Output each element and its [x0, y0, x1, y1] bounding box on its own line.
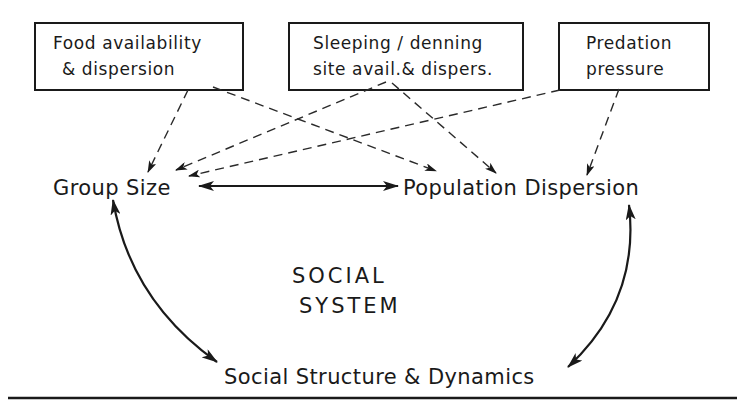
factor-predation-line1: Predation	[586, 33, 672, 53]
edge-predation-to-group-size	[189, 90, 560, 176]
factor-box-sleeping: Sleeping / denning site avail.& dispers.	[289, 23, 523, 90]
edge-predation-to-population-dispersion	[587, 89, 619, 175]
factor-box-food: Food availability & dispersion	[35, 23, 243, 90]
factor-box-predation: Predation pressure	[559, 23, 709, 90]
factor-sleeping-line1: Sleeping / denning	[313, 33, 483, 53]
edge-population-dispersion-social-structure	[568, 205, 630, 367]
edge-sleeping-to-population-dispersion	[392, 83, 496, 173]
node-group-size: Group Size	[53, 176, 171, 200]
edge-food-to-group-size	[148, 90, 188, 172]
edge-food-to-population-dispersion	[213, 87, 436, 171]
edge-sleeping-to-group-size	[176, 82, 386, 170]
factor-food-line1: Food availability	[53, 33, 202, 53]
node-social-structure: Social Structure & Dynamics	[224, 365, 535, 389]
center-label-line1: SOCIAL	[292, 264, 387, 288]
edge-group-size-social-structure	[113, 200, 217, 362]
center-label-line2: SYSTEM	[299, 294, 401, 318]
node-population-dispersion: Population Dispersion	[403, 176, 639, 200]
factor-sleeping-line2: site avail.& dispers.	[313, 59, 493, 79]
factor-food-line2: & dispersion	[62, 59, 175, 79]
social-system-diagram: Food availability & dispersion Sleeping …	[0, 0, 744, 419]
factor-predation-line2: pressure	[586, 59, 664, 79]
